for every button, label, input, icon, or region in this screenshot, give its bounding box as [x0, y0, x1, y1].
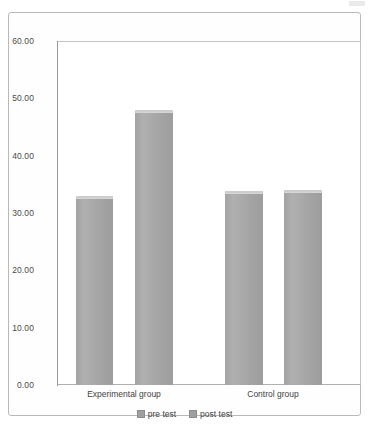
x-axis-category-labels: Experimental group Control group	[57, 389, 361, 403]
bar-experimental-post	[135, 110, 173, 385]
bar-control-post	[284, 190, 322, 385]
y-tick-label: 60.00	[12, 36, 34, 46]
chart-legend: pre test post test	[9, 409, 360, 419]
legend-label: post test	[200, 409, 232, 419]
y-tick-label: 30.00	[12, 208, 34, 218]
x-category-label-control: Control group	[247, 389, 299, 399]
bar-chart: 60.00 50.00 40.00 30.00 20.00 10.00 0.00…	[9, 13, 360, 415]
y-tick-label: 40.00	[12, 151, 34, 161]
x-category-label-experimental: Experimental group	[87, 389, 161, 399]
legend-label: pre test	[148, 409, 176, 419]
bar-experimental-pre	[76, 196, 113, 385]
legend-swatch-icon	[137, 410, 145, 418]
legend-swatch-icon	[189, 410, 197, 418]
chart-frame: 60.00 50.00 40.00 30.00 20.00 10.00 0.00…	[8, 12, 361, 416]
legend-item-post-test: post test	[189, 409, 232, 419]
bar-control-pre	[225, 191, 263, 385]
bar-group-container	[57, 41, 361, 385]
legend-item-pre-test: pre test	[137, 409, 176, 419]
y-tick-label: 50.00	[12, 93, 34, 103]
y-tick-label: 10.00	[12, 323, 34, 333]
y-tick-label: 20.00	[12, 265, 34, 275]
scan-artifact	[349, 1, 365, 6]
y-tick-label: 0.00	[17, 380, 34, 390]
